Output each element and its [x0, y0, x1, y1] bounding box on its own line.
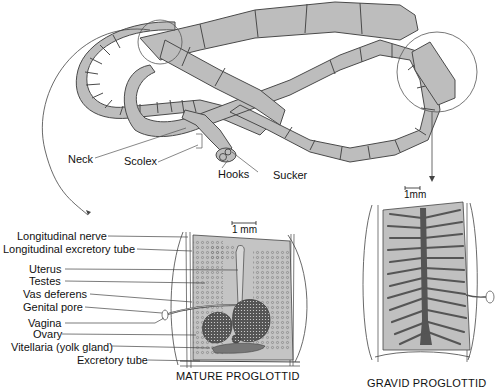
label-longitudinal-nerve: Longitudinal nerve	[17, 230, 107, 242]
label-scolex: Scolex	[124, 155, 157, 167]
gravid-proglottid	[363, 186, 494, 362]
gravid-caption: GRAVID PROGLOTTID	[367, 377, 486, 389]
label-genital-pore: Genital pore	[23, 301, 83, 313]
label-vitellaria: Vitellaria (yolk gland)	[11, 341, 113, 353]
gravid-scale-label: 1mm	[404, 189, 426, 200]
label-hooks: Hooks	[218, 168, 249, 180]
worm-body	[76, 2, 440, 162]
label-ovary: Ovary	[33, 328, 62, 340]
label-vas-deferens: Vas deferens	[23, 288, 87, 300]
mature-proglottid	[162, 221, 307, 368]
label-excretory-tube: Excretory tube	[77, 354, 148, 366]
gravid-segment-isolated	[412, 42, 455, 105]
label-testes: Testes	[29, 275, 61, 287]
label-longitudinal-excretory-tube: Longitudinal excretory tube	[3, 243, 135, 255]
label-uterus: Uterus	[29, 263, 61, 275]
tapeworm-diagram: Neck Scolex Hooks Sucker Longitudinal ne…	[0, 0, 501, 392]
label-neck: Neck	[68, 153, 93, 165]
mature-caption: MATURE PROGLOTTID	[176, 370, 300, 382]
label-sucker: Sucker	[273, 169, 307, 181]
mature-scale-label: 1 mm	[232, 224, 257, 235]
